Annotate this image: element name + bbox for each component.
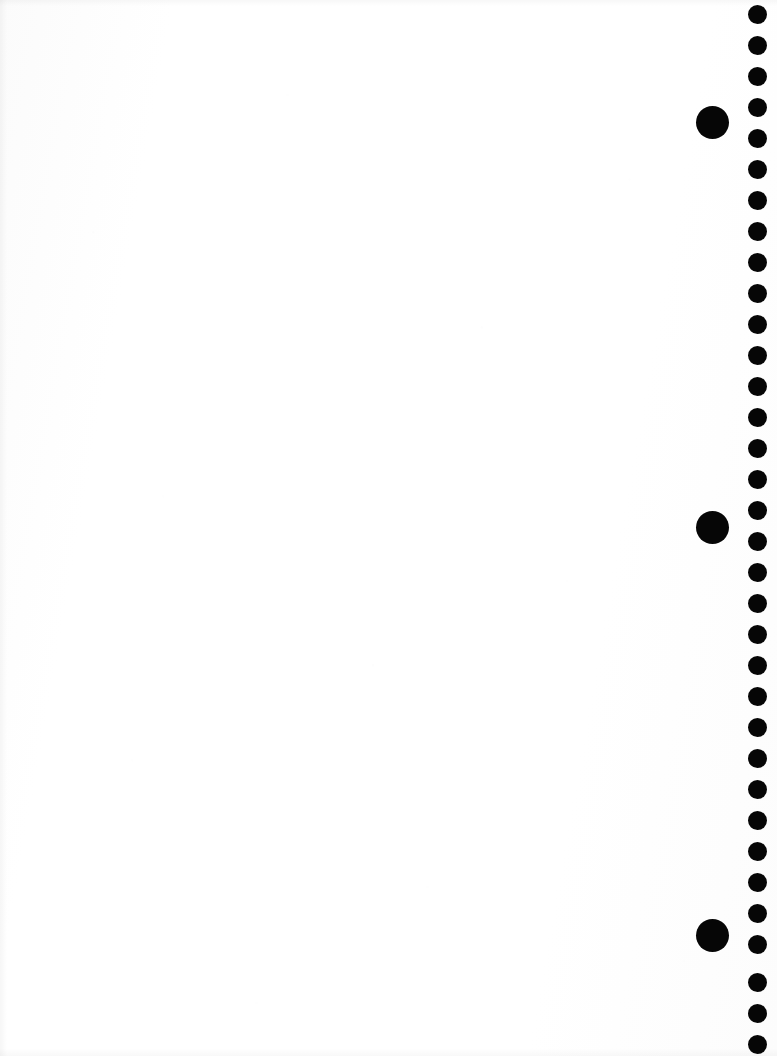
registration-dot xyxy=(748,594,767,613)
registration-dot xyxy=(748,36,767,55)
large-marker-dot xyxy=(696,511,729,544)
scanned-page xyxy=(0,0,777,1056)
registration-dot xyxy=(748,501,767,520)
registration-dot xyxy=(748,408,767,427)
registration-dot xyxy=(748,749,767,768)
registration-dot xyxy=(748,346,767,365)
registration-dot xyxy=(748,687,767,706)
registration-dot xyxy=(748,873,767,892)
registration-dot xyxy=(748,98,767,117)
registration-dot xyxy=(748,160,767,179)
large-marker-dot xyxy=(696,106,729,139)
registration-dot xyxy=(748,284,767,303)
registration-dot xyxy=(748,315,767,334)
registration-dot xyxy=(748,377,767,396)
registration-dot xyxy=(748,253,767,272)
registration-dot xyxy=(748,67,767,86)
registration-dot xyxy=(748,625,767,644)
registration-dot xyxy=(748,222,767,241)
registration-dot xyxy=(748,191,767,210)
large-marker-dot xyxy=(696,919,729,952)
registration-dot xyxy=(748,842,767,861)
registration-dot xyxy=(748,935,767,954)
registration-dot xyxy=(748,129,767,148)
registration-dot xyxy=(748,811,767,830)
registration-dot xyxy=(748,1004,767,1023)
registration-dot xyxy=(748,904,767,923)
registration-dot xyxy=(748,563,767,582)
registration-dot xyxy=(748,470,767,489)
registration-dot xyxy=(748,973,767,992)
page-content-area xyxy=(0,0,690,1056)
registration-dot xyxy=(748,656,767,675)
registration-dot xyxy=(748,780,767,799)
registration-dot xyxy=(748,1035,767,1054)
registration-dot xyxy=(748,532,767,551)
registration-dot xyxy=(748,5,767,24)
registration-dot xyxy=(748,439,767,458)
registration-dot xyxy=(748,718,767,737)
